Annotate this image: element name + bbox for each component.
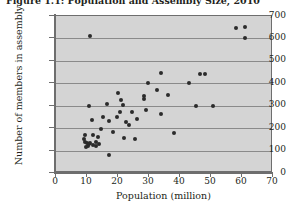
figure-title: Figure 1.1: Population and Assembly Size… — [6, 0, 284, 6]
y-tick-500 — [49, 60, 55, 61]
y-tick-label-700: 700 — [242, 11, 286, 20]
data-point — [234, 26, 238, 30]
data-point — [107, 119, 111, 123]
x-tick-label-30: 30 — [133, 176, 163, 186]
data-point — [135, 117, 139, 121]
data-point — [121, 103, 125, 107]
data-point — [159, 112, 163, 116]
y-tick-label-600: 600 — [242, 33, 286, 42]
y-axis-title: Number of members in assembly — [13, 6, 24, 166]
data-point — [144, 108, 148, 112]
data-point — [88, 34, 92, 38]
data-point — [122, 136, 126, 140]
data-point — [101, 115, 105, 119]
y-tick-label-100: 100 — [242, 145, 286, 154]
data-point — [90, 118, 94, 122]
data-point — [166, 93, 170, 97]
gridline-y-500 — [56, 61, 271, 62]
data-point — [97, 142, 101, 146]
y-tick-100 — [49, 150, 55, 151]
data-point — [99, 127, 103, 131]
x-tick-label-70: 70 — [257, 176, 286, 186]
data-point — [243, 25, 247, 29]
data-point — [130, 110, 134, 114]
y-tick-400 — [49, 82, 55, 83]
data-point — [115, 115, 119, 119]
figure-container: Figure 1.1: Population and Assembly Size… — [0, 0, 286, 219]
data-point — [127, 123, 131, 127]
data-point — [172, 131, 176, 135]
y-tick-300 — [49, 105, 55, 106]
data-point — [155, 88, 159, 92]
gridline-y-600 — [56, 38, 271, 39]
plot-area — [55, 15, 272, 172]
x-axis-title: Population (million) — [55, 190, 272, 201]
data-point — [111, 130, 115, 134]
y-tick-600 — [49, 37, 55, 38]
data-point — [119, 98, 123, 102]
gridline-y-400 — [56, 83, 271, 84]
data-point — [142, 97, 146, 101]
data-point — [83, 133, 87, 137]
data-point — [187, 81, 191, 85]
data-point — [198, 72, 202, 76]
data-point — [96, 135, 100, 139]
gridline-y-100 — [56, 151, 271, 152]
data-point — [87, 104, 91, 108]
y-tick-200 — [49, 127, 55, 128]
data-point — [159, 71, 163, 75]
data-point — [118, 110, 122, 114]
y-tick-label-500: 500 — [242, 55, 286, 64]
x-tick-label-20: 20 — [102, 176, 132, 186]
data-point — [107, 153, 111, 157]
data-point — [84, 145, 88, 149]
data-point — [133, 137, 137, 141]
data-point — [211, 104, 215, 108]
y-tick-label-300: 300 — [242, 100, 286, 109]
y-tick-label-200: 200 — [242, 123, 286, 132]
data-point — [116, 91, 120, 95]
x-tick-label-50: 50 — [195, 176, 225, 186]
x-tick-label-10: 10 — [71, 176, 101, 186]
x-tick-label-0: 0 — [40, 176, 70, 186]
data-point — [146, 81, 150, 85]
gridline-y-200 — [56, 128, 271, 129]
x-tick-label-60: 60 — [226, 176, 256, 186]
y-tick-label-400: 400 — [242, 78, 286, 87]
data-point — [203, 72, 207, 76]
x-tick-label-40: 40 — [164, 176, 194, 186]
y-tick-700 — [49, 15, 55, 16]
data-point — [194, 104, 198, 108]
data-point — [91, 133, 95, 137]
